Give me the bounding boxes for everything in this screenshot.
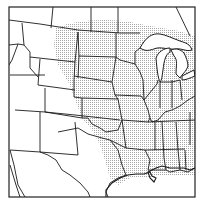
map-canvas xyxy=(0,0,203,210)
